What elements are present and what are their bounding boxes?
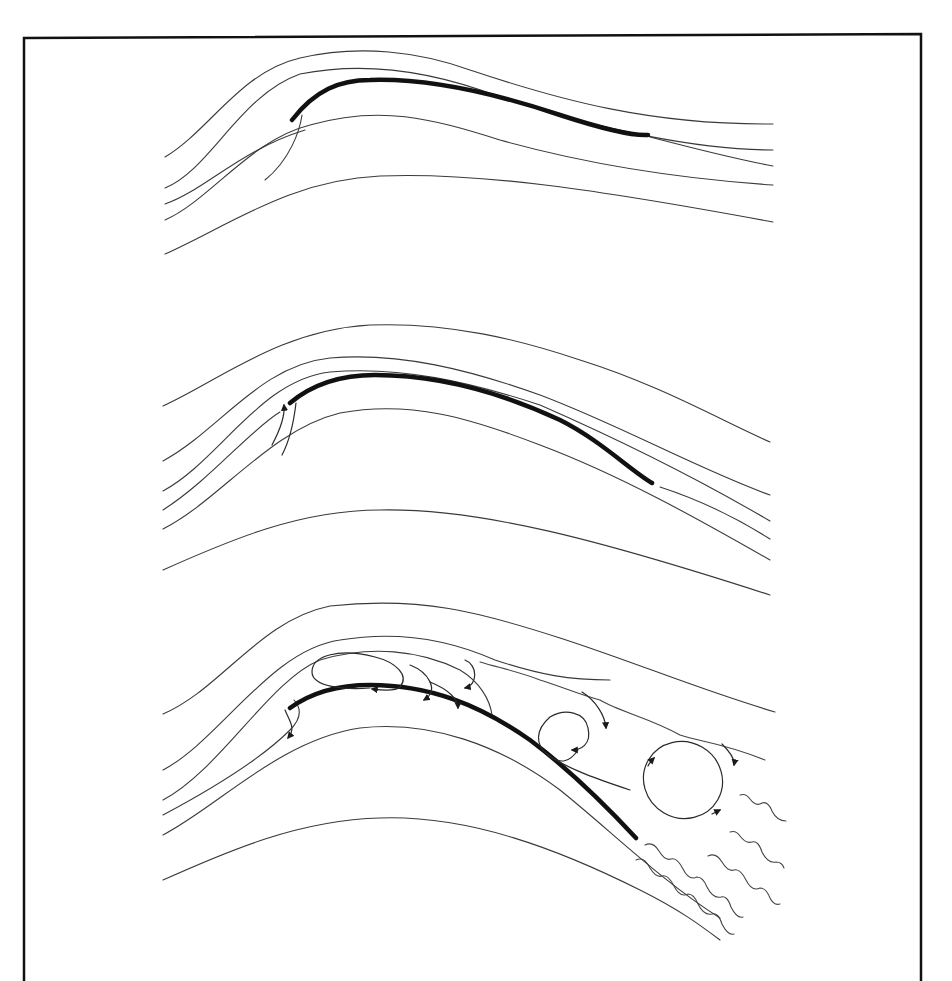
panel-leading-edge-bubble — [163, 325, 770, 595]
figure-frame — [24, 34, 921, 981]
streamline — [163, 357, 770, 495]
streamline — [163, 371, 770, 521]
streamline — [163, 651, 492, 800]
streamline — [163, 325, 770, 442]
trailing-vortex — [629, 727, 736, 833]
vortex-tail — [548, 755, 630, 790]
airfoil — [290, 685, 636, 838]
streamline — [165, 51, 773, 157]
wake-line — [730, 832, 784, 869]
streamline — [163, 510, 770, 595]
panel-attached-flow — [165, 51, 773, 254]
wake-line — [740, 795, 786, 822]
airfoil — [292, 80, 648, 135]
streamline — [163, 727, 720, 918]
streamline — [165, 175, 773, 254]
shear-layer — [480, 662, 765, 760]
streamline — [163, 700, 299, 815]
vortex-arrow — [712, 810, 720, 814]
streamline — [265, 115, 302, 180]
streamline — [165, 68, 773, 188]
streamline — [163, 412, 770, 539]
airfoil — [290, 375, 652, 483]
streamline — [165, 115, 773, 220]
streamline — [165, 130, 773, 204]
vortex-arrow — [410, 665, 431, 700]
streamline — [163, 409, 770, 560]
streamline — [163, 603, 775, 714]
diagram-figure — [0, 0, 952, 981]
vortex — [538, 712, 588, 761]
panel-stalled-flow — [163, 603, 786, 940]
wake-line — [636, 859, 734, 934]
wake-line — [645, 844, 743, 917]
